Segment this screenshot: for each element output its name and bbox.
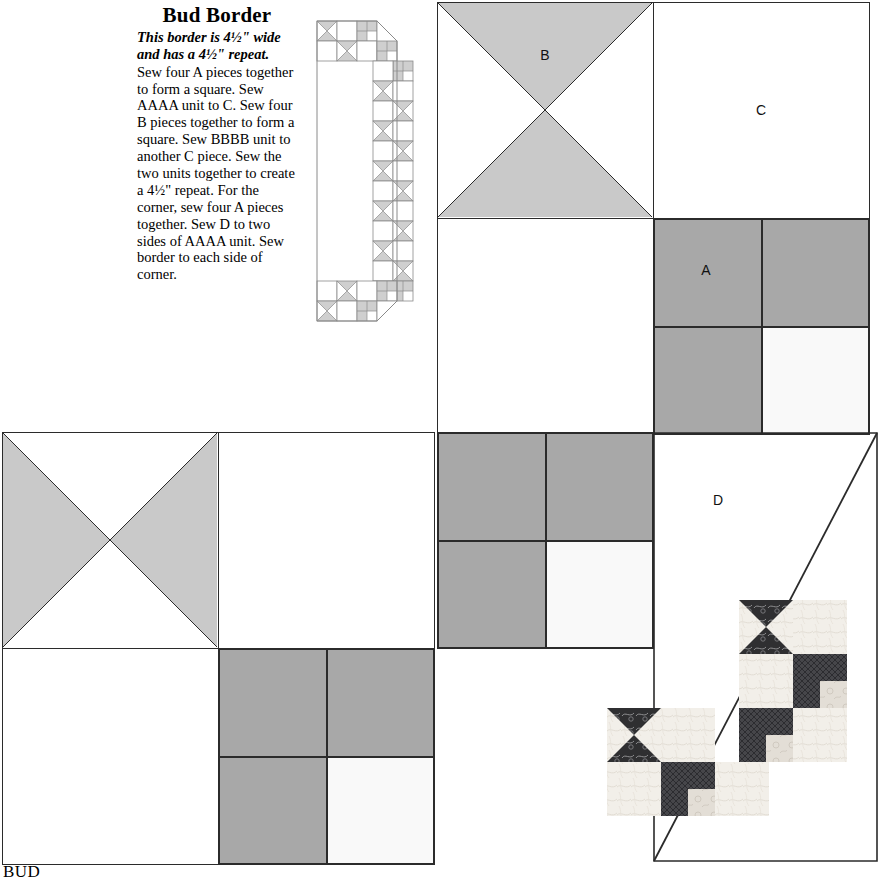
page-caption: BUD [3,862,40,882]
border-strip-schematic [315,19,415,337]
fourpatch-cell [762,327,870,435]
block-plain-bottomleft [2,648,219,865]
block-hourglass-left [2,432,219,649]
block-fourpatch-bottom [218,648,435,865]
block-c-square-top [653,2,870,219]
block-c-square-left [218,432,435,649]
intro-text: This border is 4½" wide and has a 4½" re… [137,29,297,63]
block-b-hourglass [437,2,654,219]
block-a-fourpatch-topright [653,218,870,435]
fourpatch-cell [219,757,327,865]
instruction-panel: Bud Border This border is 4½" wide and h… [137,4,297,283]
page-title: Bud Border [137,4,297,26]
fabric-sample-photo [603,596,879,860]
instruction-body: Sew four A pieces together to form a squ… [137,64,297,284]
fourpatch-cell [219,649,327,757]
fourpatch-cell [438,541,546,649]
fourpatch-cell [438,433,546,541]
fourpatch-cell [654,219,762,327]
fourpatch-cell [546,433,654,541]
fourpatch-cell [762,219,870,327]
block-plain-middle [437,218,654,435]
fourpatch-cell [327,649,435,757]
fourpatch-cell [327,757,435,865]
fourpatch-cell [654,327,762,435]
